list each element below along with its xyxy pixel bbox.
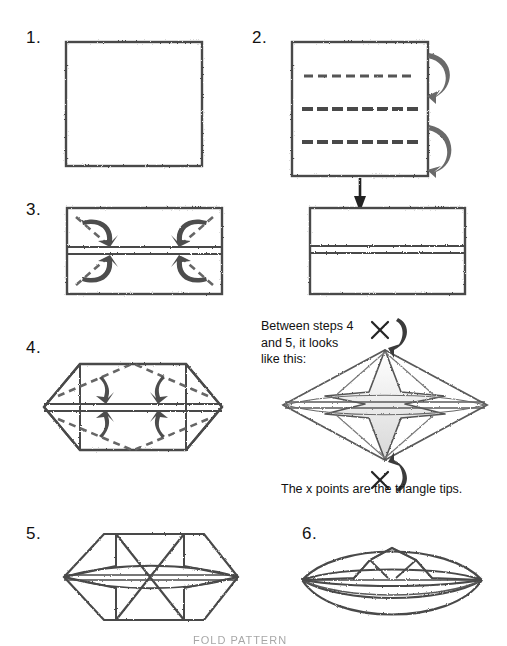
- x-mark-top-arrow-icon: [388, 318, 407, 358]
- footer-text: FOLD PATTERN: [193, 634, 287, 646]
- step-2-fold-arrow-top: [427, 53, 450, 104]
- step-6-figure: [292, 530, 492, 640]
- x-mark-top-icon: [372, 322, 388, 338]
- step-5-figure: [56, 520, 246, 635]
- step-2-figure: [286, 36, 466, 186]
- step-5-number: 5.: [26, 524, 41, 544]
- step-2-fold-arrow-bottom: [427, 125, 451, 178]
- step-1-number: 1.: [26, 28, 41, 48]
- step-3-figure: [62, 203, 237, 303]
- step-2-number: 2.: [252, 28, 267, 48]
- step-1-figure: [60, 36, 210, 176]
- step-4-figure: [36, 350, 236, 465]
- x-points-caption: The x points are the triangle tips.: [281, 481, 462, 498]
- x-mark-top-group: [368, 316, 414, 358]
- step-2-result-figure: [305, 203, 475, 303]
- step-3-number: 3.: [26, 200, 41, 220]
